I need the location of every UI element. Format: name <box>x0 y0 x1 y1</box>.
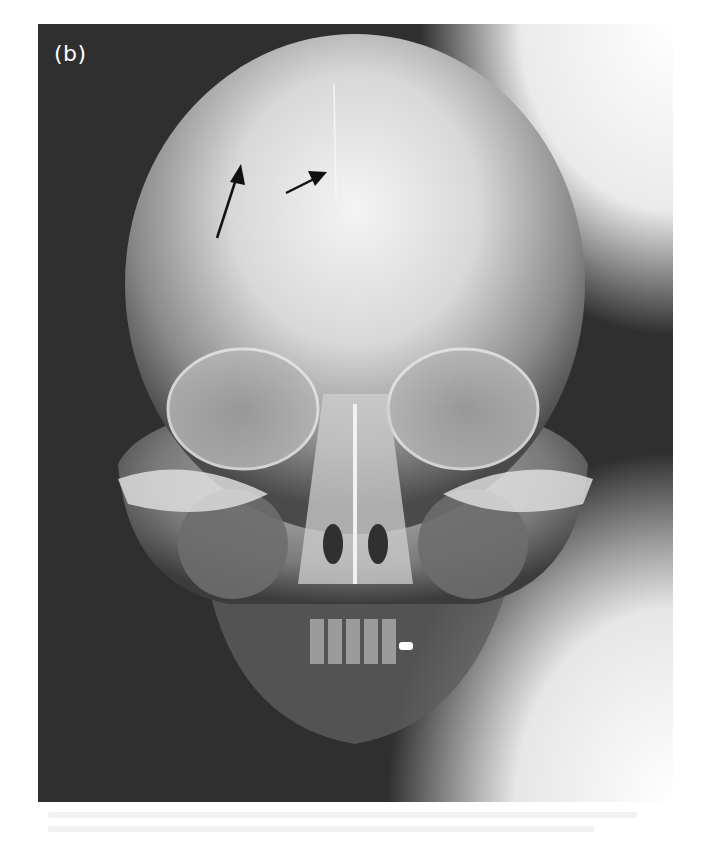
radiograph-figure: (b) <box>38 24 673 802</box>
dental-filling <box>399 642 413 650</box>
panel-label: (b) <box>54 41 87 66</box>
skull-xray-image <box>38 24 673 802</box>
bleed-through-text <box>48 812 668 842</box>
